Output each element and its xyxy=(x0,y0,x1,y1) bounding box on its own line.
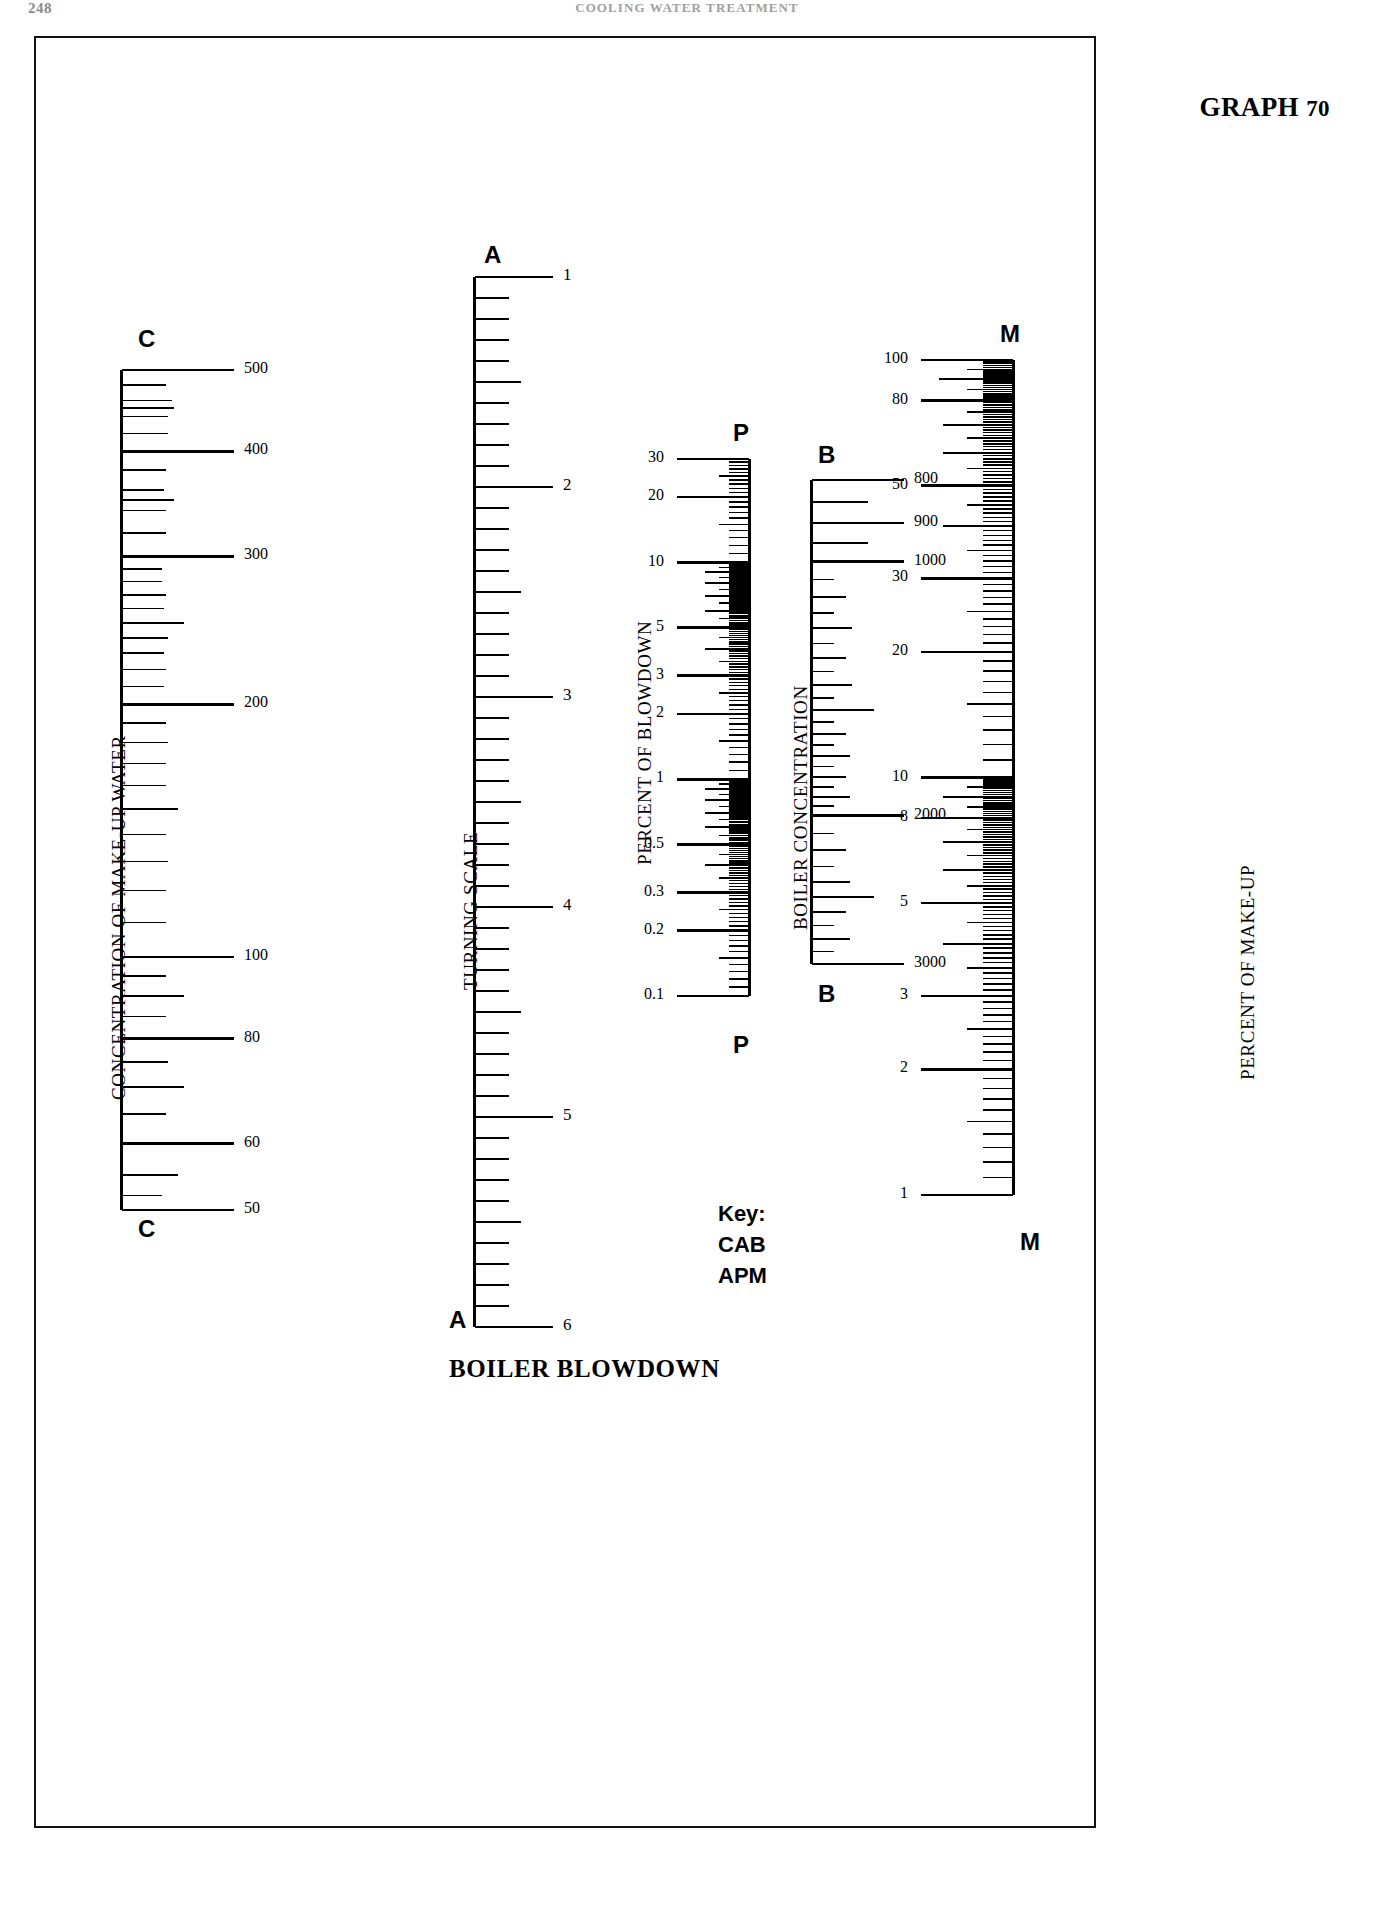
tick-minor-p xyxy=(729,658,749,659)
tick-mid-c xyxy=(122,499,174,501)
tick-minor-m xyxy=(983,427,1013,429)
tick-minor-b xyxy=(812,766,834,768)
scale-P-top-cap: P xyxy=(733,419,749,447)
tick-minor-p xyxy=(729,655,749,656)
tick-minor-p xyxy=(729,860,749,861)
tick-minor-p xyxy=(729,875,749,876)
tick-minor-m xyxy=(967,369,1013,371)
tick-minor-m xyxy=(983,395,1013,397)
tick-label-c-500: 500 xyxy=(244,360,268,376)
tick-minor-m xyxy=(967,504,1013,506)
tick-minor-a xyxy=(475,759,509,761)
tick-mid-p xyxy=(705,864,749,866)
tick-major-m xyxy=(921,651,1013,654)
tick-minor-p xyxy=(729,468,749,469)
tick-minor-p xyxy=(729,623,749,624)
tick-minor-c xyxy=(122,489,164,491)
tick-minor-p xyxy=(729,747,749,748)
tick-minor-c xyxy=(122,469,166,471)
tick-minor-p xyxy=(729,492,749,493)
graph-page: 248 COOLING WATER TREATMENT GRAPH 70 500… xyxy=(0,0,1374,1908)
tick-minor-m xyxy=(983,914,1013,916)
tick-mid-m xyxy=(943,424,1013,426)
tick-minor-m xyxy=(983,1109,1013,1111)
tick-minor-m xyxy=(983,813,1013,815)
tick-mid-b xyxy=(812,657,846,659)
tick-minor-m xyxy=(983,808,1013,810)
tick-label-m-30: 30 xyxy=(892,568,908,584)
tick-minor-m xyxy=(983,1043,1013,1045)
tick-minor-p xyxy=(729,616,749,617)
tick-label-m-100: 100 xyxy=(884,350,908,366)
tick-minor-p xyxy=(729,591,749,592)
tick-minor-m xyxy=(983,1001,1013,1003)
tick-minor-p xyxy=(729,905,749,906)
tick-minor-m xyxy=(983,440,1013,442)
tick-label-b-3000: 3000 xyxy=(914,954,946,970)
key-line-1: CAB xyxy=(718,1229,767,1260)
tick-minor-m xyxy=(983,926,1013,928)
tick-minor-p xyxy=(729,633,749,634)
tick-minor-p xyxy=(729,978,749,979)
tick-minor-p xyxy=(729,593,749,594)
tick-minor-p xyxy=(729,723,749,724)
tick-minor-p xyxy=(729,858,749,859)
tick-minor-b xyxy=(812,951,834,953)
scale-A-bottom-cap: A xyxy=(449,1306,466,1334)
tick-label-c-400: 400 xyxy=(244,441,268,457)
tick-minor-b xyxy=(812,866,834,868)
tick-minor-m xyxy=(983,380,1013,382)
tick-minor-p xyxy=(729,824,749,825)
tick-minor-c xyxy=(122,416,168,418)
tick-label-c-60: 60 xyxy=(244,1134,260,1150)
tick-mid-b xyxy=(812,911,846,913)
tick-minor-m xyxy=(983,407,1013,409)
tick-minor-a xyxy=(475,528,509,530)
tick-minor-p xyxy=(729,586,749,587)
tick-minor-m xyxy=(983,496,1013,498)
tick-minor-m xyxy=(983,729,1013,731)
tick-minor-m xyxy=(983,895,1013,897)
tick-minor-p xyxy=(729,537,749,538)
tick-label-p-30: 30 xyxy=(648,449,664,465)
tick-minor-c xyxy=(122,722,166,724)
tick-minor-p xyxy=(729,682,749,683)
tick-minor-m xyxy=(983,443,1013,445)
tick-minor-a xyxy=(475,654,509,656)
tick-minor-m xyxy=(983,402,1013,404)
tick-major-a xyxy=(475,696,553,699)
scale-A-top-cap: A xyxy=(484,241,501,269)
tick-minor-b xyxy=(812,833,834,835)
tick-major-m xyxy=(921,902,1013,905)
tick-minor-m xyxy=(983,852,1013,854)
tick-minor-p xyxy=(729,883,749,884)
tick-minor-m xyxy=(983,478,1013,480)
scale-P-axis-label: PERCENT OF BLOWDOWN xyxy=(634,621,656,865)
tick-minor-m xyxy=(983,370,1013,372)
tick-minor-p xyxy=(729,483,749,484)
tick-minor-p xyxy=(729,856,749,857)
tick-label-p-0p2: 0.2 xyxy=(644,921,664,937)
tick-minor-m xyxy=(983,784,1013,786)
tick-minor-p xyxy=(719,692,749,693)
tick-minor-p xyxy=(729,830,749,831)
key-line-2: APM xyxy=(718,1260,767,1291)
tick-label-a-5: 5 xyxy=(563,1106,572,1123)
tick-minor-m xyxy=(967,468,1013,470)
scale-A-axis-label: TURNING SCALE xyxy=(460,832,482,990)
tick-minor-p xyxy=(729,802,749,803)
tick-major-m xyxy=(921,577,1013,580)
tick-minor-p xyxy=(729,846,749,847)
tick-mid-c xyxy=(122,1174,178,1176)
tick-minor-m xyxy=(983,517,1013,519)
tick-minor-c xyxy=(122,400,172,402)
tick-minor-m xyxy=(983,1098,1013,1100)
tick-minor-p xyxy=(729,770,749,771)
tick-mid-c xyxy=(122,622,184,624)
tick-minor-m xyxy=(983,819,1013,821)
tick-minor-m xyxy=(983,365,1013,367)
tick-minor-c xyxy=(122,433,168,435)
tick-label-m-80: 80 xyxy=(892,391,908,407)
tick-minor-p xyxy=(729,611,749,612)
tick-minor-m xyxy=(983,858,1013,860)
